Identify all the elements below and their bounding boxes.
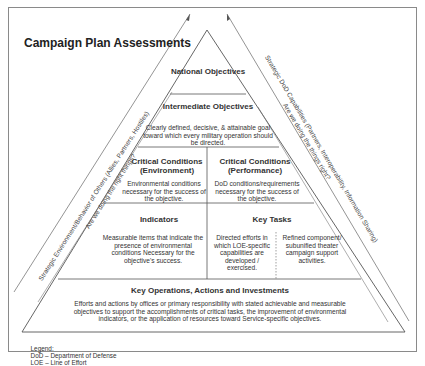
indicators-body: Measurable items that indicate the prese… [100, 234, 206, 264]
key-tasks-body-right: Refined component/ subunified theater ca… [279, 234, 345, 264]
legend-label: Legend: [31, 345, 54, 352]
key-tasks-heading: Key Tasks [212, 215, 332, 224]
diagram-title: Campaign Plan Assessments [24, 36, 191, 50]
legend: Legend: DoD – Department of Defense LOE … [27, 338, 133, 366]
intermediate-objectives-heading: Intermediate Objectives [160, 102, 256, 111]
intermediate-objectives-body: Clearly defined, decisive, & attainable … [142, 124, 274, 147]
critical-conditions-environment-heading: Critical Conditions (Environment) [128, 157, 206, 175]
key-operations-heading: Key Operations, Actions and Investments [100, 286, 320, 295]
critical-conditions-performance-heading: Critical Conditions (Performance) [212, 157, 298, 175]
critical-conditions-performance-body: DoD conditions/requirements necessary fo… [212, 180, 302, 203]
key-operations-body: Efforts and actions by offices or primar… [70, 300, 350, 323]
legend-item-dod: DoD – Department of Defense [31, 352, 117, 359]
critical-conditions-environment-body: Environmental conditions necessary for t… [122, 180, 206, 203]
indicators-heading: Indicators [112, 215, 206, 224]
national-objectives-heading: National Objectives [170, 67, 246, 76]
legend-item-loe: LOE – Line of Effort [31, 359, 87, 366]
key-tasks-body-left: Directed efforts in which LOE-specific c… [210, 234, 274, 272]
